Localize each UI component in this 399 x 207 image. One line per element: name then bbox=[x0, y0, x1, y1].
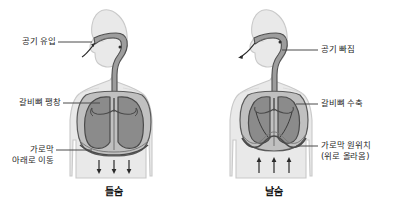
label-air-in: 공기 유입 bbox=[2, 36, 56, 47]
label-diaphragm-down: 가로막 아래로 이동 bbox=[0, 144, 54, 165]
breathing-diagram-figure: 공기 유입 갈비뼈 팽창 가로막 아래로 이동 들숨 bbox=[0, 0, 399, 207]
label-diaphragm-up: 가로막 원위치 (위로 올라옴) bbox=[321, 140, 397, 161]
caption-exhale: 날숨 bbox=[250, 183, 298, 198]
panel-exhale: 공기 빠짐 갈비뼈 수축 가로막 원위치 (위로 올라옴) 날숨 bbox=[200, 0, 399, 207]
panel-inhale: 공기 유입 갈비뼈 팽창 가로막 아래로 이동 들숨 bbox=[0, 0, 199, 207]
label-rib-expand: 갈비뼈 팽창 bbox=[2, 97, 61, 108]
label-air-out: 공기 빠짐 bbox=[321, 44, 381, 55]
caption-inhale: 들숨 bbox=[90, 183, 138, 198]
label-rib-contract: 갈비뼈 수축 bbox=[321, 98, 385, 109]
